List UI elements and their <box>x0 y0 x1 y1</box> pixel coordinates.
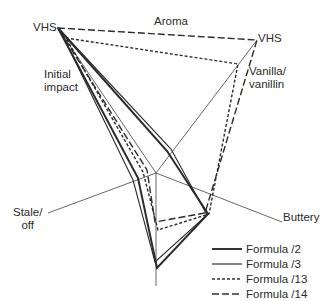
series-polygon <box>58 28 208 268</box>
legend-item: Formula /14 <box>212 286 307 301</box>
legend-item: Formula /13 <box>212 271 307 286</box>
axis-label-initial-impact: Initial impact <box>44 68 78 94</box>
legend-item: Formula /2 <box>212 241 307 256</box>
axis-label-buttery: Buttery <box>283 211 319 224</box>
chart-legend: Formula /2 Formula /3 Formula /13 Formul… <box>212 241 307 301</box>
axis-line <box>156 40 257 173</box>
series-polygon <box>58 28 257 222</box>
legend-swatch-short-dash <box>212 276 242 282</box>
chart-title-aroma: Aroma <box>154 15 188 28</box>
legend-swatch-solid-thick <box>212 246 242 252</box>
series-polygon <box>60 30 207 262</box>
axis-line <box>156 173 282 222</box>
vhs-left-label: VHS <box>33 21 57 34</box>
legend-swatch-long-dash <box>212 291 242 297</box>
axis-label-stale-off: Stale/ off <box>13 206 42 232</box>
vhs-right-label: VHS <box>258 32 282 45</box>
legend-item: Formula /3 <box>212 256 307 271</box>
axis-label-vanilla: Vanilla/ vanillin <box>249 65 286 91</box>
legend-swatch-solid-thin <box>212 261 242 267</box>
radar-series <box>58 28 257 268</box>
